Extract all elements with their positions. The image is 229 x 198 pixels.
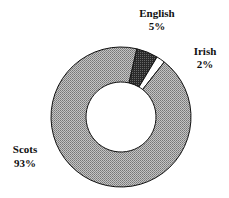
slice-scots xyxy=(51,47,191,187)
label-scots-value: 93% xyxy=(14,157,36,169)
label-irish-value: 2% xyxy=(197,58,214,70)
label-english-name: English xyxy=(139,7,174,19)
donut-slices xyxy=(51,47,191,187)
label-english-value: 5% xyxy=(149,20,166,32)
label-scots-name: Scots xyxy=(13,143,38,155)
donut-chart: English 5% Irish 2% Scots 93% xyxy=(0,0,229,198)
label-irish-name: Irish xyxy=(194,45,217,57)
